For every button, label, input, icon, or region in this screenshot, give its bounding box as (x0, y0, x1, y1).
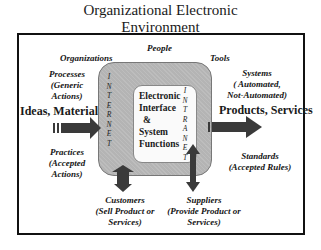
customers-arrow-icon (112, 165, 134, 192)
input-arrow-icon (53, 117, 101, 139)
flow-arrows (0, 0, 321, 250)
suppliers-arrow-icon (186, 144, 200, 192)
output-arrow-icon (208, 116, 262, 138)
